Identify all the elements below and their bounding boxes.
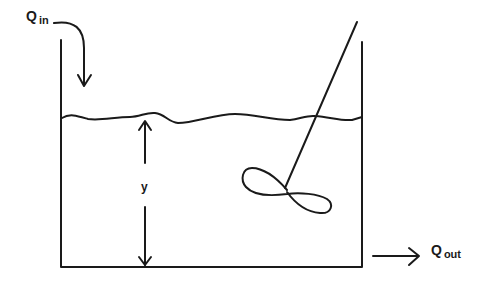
stirrer-shaft [285,22,357,188]
inflow-label: Qin [26,8,49,24]
inflow-arrow-curve [54,22,84,84]
stirrer-impeller [243,168,331,213]
inflow-label-subscript: in [39,14,49,26]
outflow-label-main: Q [431,242,442,258]
diagram-drawing [0,0,494,287]
tank-outline [61,40,362,267]
outflow-label: Qout [431,242,461,258]
stirred-tank-diagram: Qin Qout y [0,0,494,287]
inflow-label-main: Q [26,8,37,24]
outflow-label-subscript: out [444,248,461,260]
height-label: y [141,180,148,194]
